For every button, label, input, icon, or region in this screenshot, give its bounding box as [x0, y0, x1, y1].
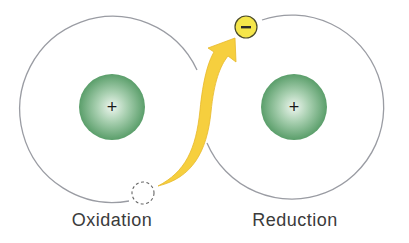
- electron-icon: [235, 16, 257, 38]
- plus-icon: +: [107, 97, 118, 117]
- oxidation-label: Oxidation: [42, 210, 182, 231]
- reduction-label: Reduction: [225, 210, 365, 231]
- electron-vacancy-icon: [132, 182, 154, 204]
- right-nucleus: +: [261, 74, 327, 140]
- diagram-canvas: + +: [0, 0, 409, 243]
- left-nucleus: +: [79, 74, 145, 140]
- plus-icon: +: [289, 97, 300, 117]
- redox-diagram: + + Oxidation Reduction: [0, 0, 409, 243]
- transfer-arrow-icon: [158, 38, 236, 186]
